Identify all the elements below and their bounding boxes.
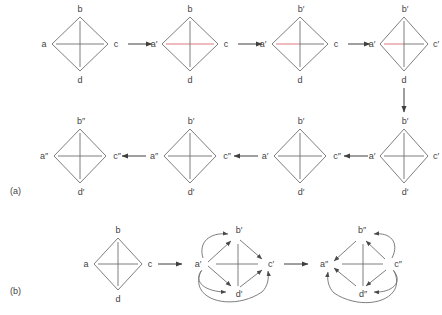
- diagram-canvas: a b c d a′ b c d a′ b′ c d: [0, 0, 442, 315]
- vertex-label-top: b′: [402, 4, 409, 14]
- vertex-label-top: b″: [358, 225, 367, 235]
- graph-a7: a″ b′ c″ d′: [150, 116, 232, 197]
- graph-a1: a b c d: [41, 4, 118, 85]
- edge-top-to-left: [334, 241, 356, 261]
- vertex-label-top: b′: [402, 116, 409, 126]
- arc-left-to-top: [202, 234, 228, 258]
- vertex-label-left: a″: [40, 151, 49, 161]
- graph-b2: a′ b′ c′ d′: [195, 225, 275, 302]
- vertex-label-top: b: [115, 225, 120, 235]
- vertex-label-right: c″: [394, 259, 403, 269]
- vertex-label-right: c″: [113, 151, 122, 161]
- edge-bottom-to-right: [240, 270, 262, 287]
- vertex-label-right: c″: [223, 151, 232, 161]
- arc-right-to-top: [374, 234, 395, 258]
- vertex-label-top: b: [77, 4, 82, 14]
- vertex-label-bottom: d: [187, 75, 192, 85]
- graph-a3: a′ b′ c d: [260, 4, 339, 85]
- arc-right-to-bottom: [374, 270, 397, 292]
- vertex-label-right: c″: [333, 151, 342, 161]
- vertex-label-left: a′: [262, 151, 269, 161]
- edge-right-to-bottom: [366, 270, 386, 286]
- vertex-label-left: a: [41, 39, 46, 49]
- vertex-label-right: c: [114, 39, 119, 49]
- vertex-label-bottom: d″: [359, 289, 368, 299]
- edge-right-to-top: [366, 241, 385, 259]
- graph-b1: a b c d: [83, 225, 152, 304]
- vertex-label-bottom: d′: [402, 187, 409, 197]
- vertex-label-left: a′: [369, 39, 376, 49]
- vertex-label-top: b′: [298, 4, 305, 14]
- vertex-label-left: a′: [151, 39, 158, 49]
- edge-bottom-to-left: [334, 268, 356, 286]
- vertex-label-left: a′: [195, 259, 202, 269]
- edge-left-to-top: [208, 241, 231, 262]
- vertex-label-left: a′: [369, 151, 376, 161]
- vertex-label-bottom: d′: [298, 187, 305, 197]
- vertex-label-top: b″: [77, 116, 86, 126]
- arc-left-to-bottom: [199, 270, 226, 292]
- vertex-label-top: b′: [188, 116, 195, 126]
- vertex-label-right: c′: [433, 39, 440, 49]
- graph-a5: a′ b′ c′ d′: [369, 116, 440, 197]
- graph-a8: a″ b″ c″ d′: [40, 116, 122, 197]
- vertex-label-right: c: [224, 39, 229, 49]
- vertex-label-bottom: d: [115, 294, 120, 304]
- edge-top-to-right: [240, 240, 262, 259]
- arc-left-to-right: [199, 271, 269, 302]
- vertex-label-top: b′: [298, 116, 305, 126]
- vertex-label-bottom: d′: [236, 289, 243, 299]
- vertex-label-right: c: [148, 259, 153, 269]
- vertex-label-left: a″: [150, 151, 159, 161]
- vertex-label-left: a′: [260, 39, 267, 49]
- vertex-label-left: a″: [320, 259, 329, 269]
- vertex-label-left: a: [83, 259, 88, 269]
- vertex-label-top: b: [187, 4, 192, 14]
- vertex-label-bottom: d: [401, 75, 406, 85]
- vertex-label-bottom: d: [77, 75, 82, 85]
- vertex-label-right: c: [334, 39, 339, 49]
- graph-b3: a″ b″ c″ d″: [320, 225, 403, 303]
- panel-label-b: (b): [10, 286, 21, 296]
- vertex-label-bottom: d: [297, 75, 302, 85]
- vertex-label-right: c′: [268, 259, 275, 269]
- panel-label-a: (a): [10, 186, 21, 196]
- graph-a2: a′ b c d: [151, 4, 229, 85]
- figure-root: a b c d a′ b c d a′ b′ c d: [0, 0, 442, 315]
- vertex-label-top: b′: [236, 225, 243, 235]
- edge-left-to-bottom: [208, 266, 231, 286]
- vertex-label-bottom: d′: [188, 187, 195, 197]
- vertex-label-right: c′: [433, 151, 440, 161]
- vertex-label-bottom: d′: [78, 187, 85, 197]
- graph-a6: a′ b′ c″ d′: [262, 116, 342, 197]
- graph-a4: a′ b′ c′ d: [369, 4, 440, 85]
